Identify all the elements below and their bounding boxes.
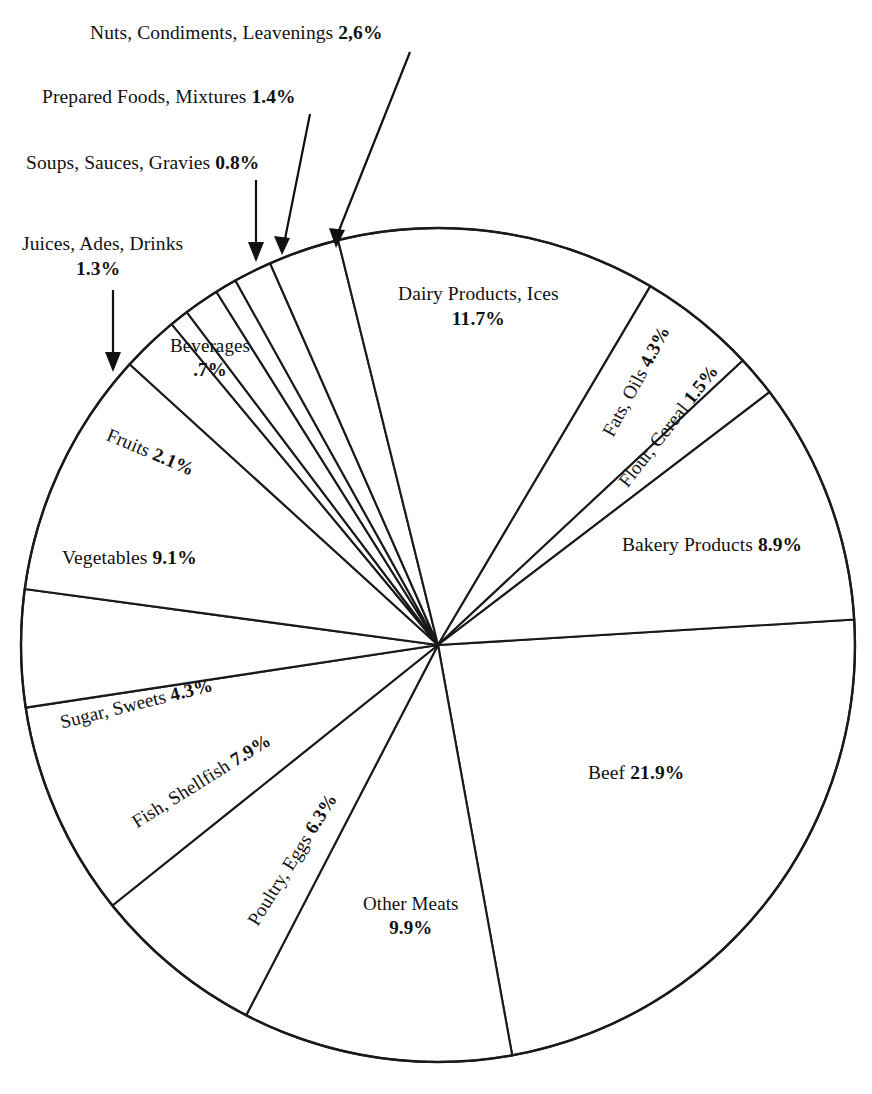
slice-label-othermeats: Other Meats 9.9%: [363, 892, 459, 941]
arrow-head-prepared: [274, 236, 290, 255]
slice-label-prepared: Prepared Foods, Mixtures 1.4%: [42, 86, 296, 108]
slice-label-bakery-name: Bakery Products: [622, 534, 753, 555]
slice-label-beverages-value: .7%: [170, 358, 250, 382]
slice-label-soups-name: Soups, Sauces, Gravies: [26, 152, 210, 173]
slice-label-beverages: Beverages .7%: [170, 334, 250, 383]
slice-label-prepared-name: Prepared Foods, Mixtures: [42, 86, 246, 107]
leader-line-nuts: [336, 52, 410, 238]
slice-label-nuts-name: Nuts, Condiments, Leavenings: [90, 22, 333, 43]
slice-label-vegetables-name: Vegetables: [62, 547, 147, 568]
slice-label-bakery: Bakery Products 8.9%: [622, 534, 802, 556]
leader-line-prepared: [284, 114, 310, 244]
slice-label-juices: Juices, Ades, Drinks 1.3%: [22, 232, 183, 282]
slice-label-beef-value: 21.9%: [630, 762, 684, 783]
arrow-head-juices: [105, 352, 121, 372]
slice-label-vegetables-value: 9.1%: [152, 547, 196, 568]
slice-label-beef-name: Beef: [588, 762, 625, 783]
slice-label-juices-name: Juices, Ades, Drinks: [22, 233, 183, 254]
pie-chart-figure: Nuts, Condiments, Leavenings 2,6% Prepar…: [0, 0, 872, 1094]
slice-label-soups: Soups, Sauces, Gravies 0.8%: [26, 152, 259, 174]
slice-label-othermeats-name: Other Meats: [363, 892, 459, 916]
slice-label-dairy-value: 11.7%: [398, 307, 559, 332]
slice-label-beverages-name: Beverages: [170, 334, 250, 358]
slice-label-dairy-name: Dairy Products, Ices: [398, 282, 559, 307]
slice-label-juices-value: 1.3%: [22, 257, 183, 282]
slice-label-beef: Beef 21.9%: [588, 762, 684, 784]
slice-label-nuts: Nuts, Condiments, Leavenings 2,6%: [90, 22, 383, 44]
slice-label-prepared-value: 1.4%: [251, 86, 295, 107]
slice-label-soups-value: 0.8%: [215, 152, 259, 173]
slice-label-othermeats-value: 9.9%: [363, 916, 459, 940]
slice-label-dairy: Dairy Products, Ices 11.7%: [398, 282, 559, 332]
slice-label-nuts-value: 2,6%: [338, 22, 382, 43]
slice-label-bakery-value: 8.9%: [758, 534, 802, 555]
arrow-head-soups: [248, 242, 264, 262]
slice-label-vegetables: Vegetables 9.1%: [62, 547, 197, 569]
